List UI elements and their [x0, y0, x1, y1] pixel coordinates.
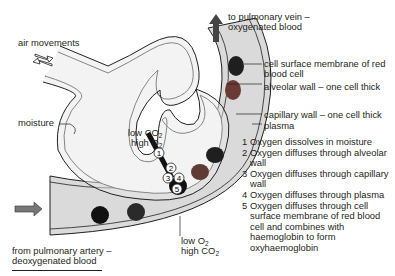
air-movements-label: air movements [18, 38, 79, 48]
co2-subscript: 2 [215, 250, 219, 257]
step-text: Oxygen diffuses through alveolar wall [250, 148, 387, 169]
o2-subscript: 2 [159, 142, 163, 149]
plasma-label: plasma [264, 121, 294, 131]
step-number: 1 [242, 137, 250, 148]
step-item: 1Oxygen dissolves in moisture [242, 137, 388, 148]
high-co2-text: high CO [181, 245, 215, 256]
moisture-label: moisture [18, 118, 54, 128]
step-number: 2 [242, 148, 250, 169]
high-co2-line: high CO2 [181, 246, 219, 256]
step-number: 3 [242, 169, 250, 190]
air-movement-arrows-icon [33, 54, 53, 66]
marker-5: 5 [175, 185, 180, 194]
alveolus-gas-label: low CO2 high O2 [128, 128, 162, 148]
step-number: 4 [242, 190, 250, 201]
high-o2-line: high O2 [128, 138, 162, 148]
blood-gas-label: low O2 high CO2 [181, 236, 219, 256]
red-blood-cell [206, 147, 224, 163]
red-blood-cell [91, 206, 109, 224]
capillary-wall-label: capillary wall – one cell thick [264, 110, 382, 120]
marker-4: 4 [177, 174, 182, 183]
red-blood-cell [225, 80, 241, 100]
marker-3: 3 [166, 174, 171, 183]
step-number: 5 [242, 201, 250, 254]
from-pulmonary-artery-label: from pulmonary artery – deoxygenated blo… [12, 246, 112, 266]
step-text: Oxygen diffuses through plasma [250, 190, 384, 201]
cell-membrane-line2: blood cell [264, 69, 385, 79]
marker-2: 2 [169, 164, 174, 173]
step-item: 3Oxygen diffuses through capillary wall [242, 169, 388, 190]
alveolar-wall-label: alveolar wall – one cell thick [264, 82, 380, 92]
steps-list: 1Oxygen dissolves in moisture 2Oxygen di… [242, 137, 388, 254]
step-item: 5Oxygen diffuses through cell surface me… [242, 201, 388, 254]
blood-in-arrow-icon [15, 202, 42, 216]
from-artery-line2: deoxygenated blood [12, 256, 112, 266]
step-text: Oxygen diffuses through cell surface mem… [250, 201, 380, 254]
red-blood-cell [191, 164, 209, 180]
step-item: 4Oxygen diffuses through plasma [242, 190, 388, 201]
to-pulmonary-vein-label: to pulmonary vein – oxygenated blood [228, 12, 310, 32]
red-blood-cell [228, 56, 244, 76]
step-text: Oxygen diffuses through capillary wall [250, 169, 388, 190]
high-o2-text: high O [131, 137, 159, 148]
cell-membrane-label: cell surface membrane of red blood cell [264, 59, 385, 79]
step-item: 2Oxygen diffuses through alveolar wall [242, 148, 388, 169]
marker-1: 1 [157, 149, 162, 158]
divider-rule [12, 270, 102, 271]
red-blood-cell [127, 203, 145, 221]
step-text: Oxygen dissolves in moisture [250, 137, 372, 148]
to-vein-line2: oxygenated blood [228, 22, 310, 32]
